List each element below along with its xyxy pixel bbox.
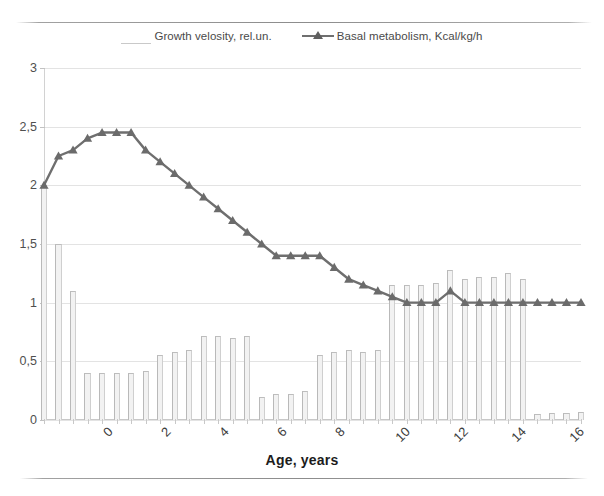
bar <box>331 352 337 420</box>
line-marker-triangle <box>359 280 368 288</box>
legend-label-growth-velocity: Growth velosity, rel.un. <box>154 30 271 42</box>
line-marker-triangle <box>301 251 310 259</box>
gridline <box>44 361 581 362</box>
chart-legend: Growth velosity, rel.un. Basal metabolis… <box>0 30 604 42</box>
line-marker-triangle <box>68 146 77 154</box>
x-axis-tick <box>102 419 103 424</box>
y-axis-tick <box>40 68 45 69</box>
bar <box>157 355 163 420</box>
line-marker-triangle <box>112 128 121 136</box>
x-axis-tick <box>131 419 132 424</box>
x-axis-tick <box>436 419 437 424</box>
x-axis-label: 4 <box>216 424 232 440</box>
line-marker-triangle <box>228 216 237 224</box>
gridline <box>44 68 581 69</box>
bar <box>520 279 526 420</box>
x-axis-tick <box>378 419 379 424</box>
bar <box>505 273 511 420</box>
x-axis-tick <box>349 419 350 424</box>
page-rule-top <box>16 22 592 23</box>
bar <box>172 352 178 420</box>
bar-swatch-icon <box>121 35 151 44</box>
bar <box>186 350 192 420</box>
gridline <box>44 244 581 245</box>
x-axis-label: 8 <box>332 424 348 440</box>
line-marker-triangle <box>83 134 92 142</box>
x-axis-tick <box>73 419 74 424</box>
bar <box>201 336 207 420</box>
x-axis-tick <box>44 419 45 424</box>
bar <box>259 397 265 420</box>
gridline <box>44 127 581 128</box>
x-axis-tick <box>218 419 219 424</box>
x-axis-label: 0 <box>100 424 116 440</box>
legend-item-growth-velocity: Growth velosity, rel.un. <box>121 30 271 42</box>
bar <box>143 371 149 420</box>
x-axis-tick <box>117 419 118 424</box>
y-axis-label: 1,5 <box>20 237 37 251</box>
x-axis-tick <box>160 419 161 424</box>
y-axis-label: 0 <box>30 413 37 427</box>
x-axis-tick <box>407 419 408 424</box>
bar <box>84 373 90 420</box>
x-axis-tick <box>479 419 480 424</box>
gridline <box>44 303 581 304</box>
line-marker-triangle <box>170 169 179 177</box>
bar <box>70 291 76 420</box>
x-axis-tick <box>175 419 176 424</box>
x-axis-tick <box>508 419 509 424</box>
gridline <box>44 420 581 421</box>
bar <box>128 373 134 420</box>
x-axis-tick <box>465 419 466 424</box>
x-axis-tick <box>421 419 422 424</box>
bar <box>433 283 439 420</box>
line-marker-triangle <box>286 251 295 259</box>
x-axis-tick <box>494 419 495 424</box>
line-marker-triangle <box>54 151 63 159</box>
line-marker-triangle <box>141 146 150 154</box>
x-axis-tick <box>262 419 263 424</box>
x-axis-label: 14 <box>509 424 530 445</box>
x-axis-title: Age, years <box>0 452 604 468</box>
x-axis-tick <box>247 419 248 424</box>
y-axis-label: 2 <box>30 178 37 192</box>
bar <box>404 285 410 420</box>
x-axis-tick <box>566 419 567 424</box>
x-axis-tick <box>537 419 538 424</box>
bar <box>447 270 453 420</box>
line-marker-triangle <box>156 157 165 165</box>
bar <box>302 391 308 420</box>
x-axis-tick <box>204 419 205 424</box>
x-axis-tick <box>363 419 364 424</box>
line-marker-triangle <box>344 275 353 283</box>
line-marker-triangle <box>243 228 252 236</box>
bar <box>99 373 105 420</box>
y-axis-label: 0,5 <box>20 354 37 368</box>
x-axis-tick <box>523 419 524 424</box>
bar <box>114 373 120 420</box>
line-marker-triangle <box>315 251 324 259</box>
line-marker-triangle <box>97 128 106 136</box>
bar <box>375 350 381 420</box>
x-axis-label: 6 <box>274 424 290 440</box>
x-axis-tick <box>450 419 451 424</box>
x-axis-tick <box>59 419 60 424</box>
x-axis-tick <box>392 419 393 424</box>
x-axis-tick <box>276 419 277 424</box>
x-axis-tick <box>305 419 306 424</box>
x-axis-label: 2 <box>158 424 174 440</box>
legend-label-basal-metabolism: Basal metabolism, Kcal/kg/h <box>337 30 483 42</box>
bar <box>288 394 294 420</box>
line-marker-triangle <box>199 192 208 200</box>
bar <box>360 352 366 420</box>
x-axis-tick <box>189 419 190 424</box>
legend-item-basal-metabolism: Basal metabolism, Kcal/kg/h <box>302 30 483 42</box>
bar <box>41 185 47 420</box>
line-marker-triangle <box>214 204 223 212</box>
x-axis-label: 12 <box>451 424 472 445</box>
line-marker-triangle <box>272 251 281 259</box>
bar <box>491 277 497 420</box>
x-axis-tick <box>291 419 292 424</box>
x-axis-label: 10 <box>393 424 414 445</box>
y-axis-label: 1 <box>30 296 37 310</box>
